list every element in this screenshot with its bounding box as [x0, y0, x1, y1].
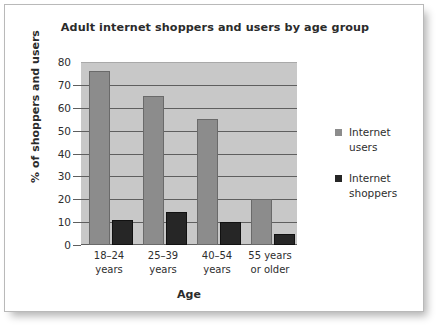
- y-tick-label: 20: [49, 193, 71, 205]
- x-tick-label-line1: 25–39: [136, 249, 190, 263]
- x-tick-label-line2: or older: [243, 263, 297, 277]
- y-axis-tick: [73, 131, 81, 132]
- bar-internet-shoppers[interactable]: [274, 234, 295, 245]
- y-axis-tick-labels: 80 70 60 50 40 30 20 10 0: [49, 62, 71, 245]
- legend-label-line2: users: [349, 140, 423, 155]
- y-axis-tick: [73, 199, 81, 200]
- legend-entry-internet-shoppers[interactable]: Internet shoppers: [335, 171, 423, 200]
- legend-swatch-icon: [335, 129, 342, 136]
- y-axis-tick: [73, 108, 81, 109]
- y-axis-tick: [73, 154, 81, 155]
- x-tick-label-line2: years: [136, 263, 190, 277]
- bar-internet-users[interactable]: [251, 199, 272, 245]
- y-tick-label: 80: [49, 56, 71, 68]
- legend-swatch-icon: [335, 175, 342, 182]
- legend-label-line1: Internet: [349, 125, 423, 140]
- y-tick-label: 0: [49, 239, 71, 251]
- legend-label-line2: shoppers: [349, 186, 423, 201]
- y-axis-title: % of shoppers and users: [29, 17, 42, 197]
- x-tick-label-25-39: 25–39 years: [136, 249, 190, 276]
- y-axis-ticks: [73, 62, 81, 245]
- x-tick-label-55-or-older: 55 years or older: [243, 249, 297, 276]
- bar-internet-shoppers[interactable]: [220, 222, 241, 245]
- bar-group-55-or-older: [247, 62, 301, 245]
- y-axis-tick: [73, 85, 81, 86]
- x-tick-label-line1: 18–24: [82, 249, 136, 263]
- x-tick-label-40-54: 40–54 years: [190, 249, 244, 276]
- chart-title: Adult internet shoppers and users by age…: [5, 21, 425, 34]
- bar-internet-users[interactable]: [89, 71, 110, 245]
- y-axis-tick: [73, 245, 81, 246]
- x-axis-title: Age: [81, 288, 297, 301]
- y-tick-label: 50: [49, 125, 71, 137]
- y-tick-label: 70: [49, 79, 71, 91]
- bar-group-25-39: [139, 62, 193, 245]
- x-tick-label-line1: 55 years: [243, 249, 297, 263]
- plot-area: [81, 62, 297, 245]
- y-axis-tick: [73, 222, 81, 223]
- x-tick-label-line2: years: [82, 263, 136, 277]
- bar-internet-shoppers[interactable]: [166, 212, 187, 245]
- legend-label-line1: Internet: [349, 171, 423, 186]
- y-tick-label: 60: [49, 102, 71, 114]
- x-axis-tick-labels: 18–24 years 25–39 years 40–54 years 55 y…: [81, 249, 297, 283]
- y-tick-label: 10: [49, 216, 71, 228]
- bar-internet-users[interactable]: [197, 119, 218, 245]
- bar-group-18-24: [85, 62, 139, 245]
- y-axis-tick: [73, 176, 81, 177]
- y-tick-label: 30: [49, 170, 71, 182]
- bar-internet-shoppers[interactable]: [112, 220, 133, 245]
- chart-figure-frame: Adult internet shoppers and users by age…: [4, 4, 424, 312]
- x-tick-label-line1: 40–54: [190, 249, 244, 263]
- y-tick-label: 40: [49, 148, 71, 160]
- legend-entry-internet-users[interactable]: Internet users: [335, 125, 423, 154]
- x-tick-label-18-24: 18–24 years: [82, 249, 136, 276]
- bar-internet-users[interactable]: [143, 96, 164, 245]
- x-tick-label-line2: years: [190, 263, 244, 277]
- bar-group-40-54: [193, 62, 247, 245]
- chart-legend: Internet users Internet shoppers: [335, 125, 423, 217]
